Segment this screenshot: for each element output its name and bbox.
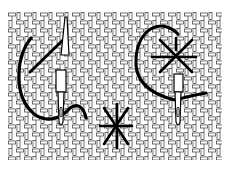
stitch-diagram (0, 0, 234, 176)
woven-canvas (8, 12, 222, 160)
star-stitch-bottom-center (100, 104, 132, 148)
stitch-diagram-svg (0, 0, 234, 176)
